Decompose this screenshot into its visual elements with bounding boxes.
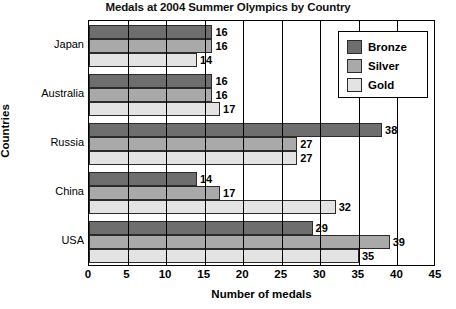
bar-usa-bronze [89, 221, 313, 235]
bar-russia-gold [89, 151, 297, 165]
bar-china-gold [89, 200, 336, 214]
bar-value-label: 39 [393, 235, 405, 249]
bar-japan-gold [89, 53, 197, 67]
bar-usa-gold [89, 249, 359, 263]
legend-item-gold: Gold [347, 75, 427, 94]
legend-swatch-silver-icon [347, 59, 362, 73]
y-tick-label-japan: Japan [0, 38, 84, 50]
gridline [166, 21, 167, 265]
chart-legend: Bronze Silver Gold [338, 31, 428, 98]
bar-value-label: 17 [223, 186, 235, 200]
gridline [243, 21, 244, 265]
x-tick-label: 40 [381, 268, 411, 280]
y-tick-label-china: China [0, 185, 84, 197]
gridline [205, 21, 206, 265]
gridline [282, 21, 283, 265]
bar-value-label: 16 [215, 88, 227, 102]
legend-label-silver: Silver [368, 59, 399, 73]
x-tick-label: 30 [304, 268, 334, 280]
bar-value-label: 27 [300, 151, 312, 165]
x-tick-label: 25 [266, 268, 296, 280]
bar-value-label: 14 [200, 172, 212, 186]
bar-value-label: 14 [200, 53, 212, 67]
bar-australia-silver [89, 88, 212, 102]
bar-value-label: 35 [362, 249, 374, 263]
legend-item-silver: Silver [347, 56, 427, 75]
legend-item-bronze: Bronze [347, 37, 427, 56]
y-tick-label-usa: USA [0, 234, 84, 246]
x-tick-label: 10 [150, 268, 180, 280]
x-tick-label: 5 [112, 268, 142, 280]
bar-value-label: 29 [316, 221, 328, 235]
bar-russia-silver [89, 137, 297, 151]
bar-russia-bronze [89, 123, 382, 137]
bar-value-label: 16 [215, 25, 227, 39]
x-tick-label: 15 [189, 268, 219, 280]
bar-value-label: 32 [339, 200, 351, 214]
bar-value-label: 17 [223, 102, 235, 116]
legend-label-gold: Gold [368, 78, 394, 92]
bar-china-bronze [89, 172, 197, 186]
x-tick-label: 20 [227, 268, 257, 280]
bar-japan-silver [89, 39, 212, 53]
bar-value-label: 27 [300, 137, 312, 151]
y-tick-label-australia: Australia [0, 87, 84, 99]
x-tick-label: 0 [73, 268, 103, 280]
y-axis-title: Countries [0, 104, 11, 158]
bar-australia-gold [89, 102, 220, 116]
legend-swatch-gold-icon [347, 78, 362, 92]
bar-japan-bronze [89, 25, 212, 39]
medals-bar-chart: Medals at 2004 Summer Olympics by Countr… [0, 0, 456, 309]
bar-value-label: 16 [215, 39, 227, 53]
chart-title: Medals at 2004 Summer Olympics by Countr… [0, 1, 456, 13]
bar-usa-silver [89, 235, 390, 249]
bar-australia-bronze [89, 74, 212, 88]
legend-label-bronze: Bronze [368, 40, 407, 54]
gridline [320, 21, 321, 265]
bar-china-silver [89, 186, 220, 200]
legend-swatch-bronze-icon [347, 40, 362, 54]
bar-value-label: 38 [385, 123, 397, 137]
x-tick-label: 45 [420, 268, 450, 280]
y-tick-label-russia: Russia [0, 136, 84, 148]
x-axis-title: Number of medals [88, 288, 435, 300]
x-tick-label: 35 [343, 268, 373, 280]
bar-value-label: 16 [215, 74, 227, 88]
gridline [128, 21, 129, 265]
